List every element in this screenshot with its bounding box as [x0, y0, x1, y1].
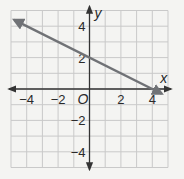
x-tick-label: −2 — [51, 92, 66, 107]
x-tick-label: 4 — [149, 92, 156, 107]
data-line — [14, 20, 162, 94]
origin-label: O — [78, 91, 89, 107]
x-tick-label: 2 — [117, 92, 124, 107]
y-tick-label: −4 — [71, 145, 86, 160]
y-tick-label: 4 — [78, 19, 85, 34]
axes — [9, 7, 171, 170]
y-tick-label: −2 — [71, 113, 86, 128]
y-axis-label: y — [94, 5, 103, 21]
coordinate-plane: −4−22442−2−4 x y O — [0, 0, 184, 179]
x-tick-label: −4 — [19, 92, 34, 107]
x-axis-label: x — [159, 70, 168, 86]
